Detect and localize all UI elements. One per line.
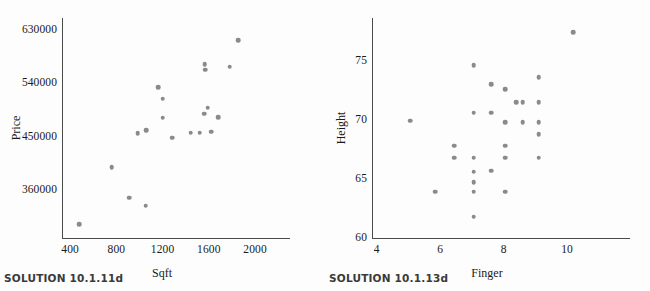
y-axis-tick-label: 450000 <box>22 131 57 143</box>
scatter-point <box>160 97 165 102</box>
y-axis-tick-label: 65 <box>355 173 367 185</box>
scatter-point <box>471 214 476 219</box>
x-axis-line <box>372 238 630 239</box>
y-axis-tick-label: 540000 <box>22 78 57 90</box>
scatter-point <box>203 67 208 72</box>
y-axis-title: Height <box>334 112 349 145</box>
figure-caption-left: SOLUTION 10.1.11d <box>4 272 123 284</box>
x-axis-tick-label: 10 <box>561 244 573 256</box>
scatter-point <box>127 195 132 200</box>
y-axis-tick-label: 70 <box>355 114 367 126</box>
y-axis-tick-label: 75 <box>355 55 367 67</box>
x-axis-tick-label: 1600 <box>197 244 220 256</box>
scatter-point <box>144 204 149 209</box>
solutions-figure-page: 3600004500005400006300004008001200160020… <box>0 0 650 291</box>
scatter-point <box>536 75 541 80</box>
scatter-point <box>209 129 214 134</box>
x-axis-tick-label: 800 <box>108 244 126 256</box>
scatter-point <box>536 100 541 105</box>
figure-price-vs-sqft: 3600004500005400006300004008001200160020… <box>0 0 325 291</box>
scatter-point <box>408 119 413 124</box>
y-axis-line <box>372 18 373 238</box>
scatter-point <box>452 155 457 160</box>
scatter-point <box>503 143 508 148</box>
scatter-point <box>471 63 476 68</box>
scatter-point <box>571 30 576 35</box>
scatter-point <box>227 64 232 69</box>
scatter-point <box>471 180 476 185</box>
scatter-point <box>489 110 494 115</box>
y-axis-tick-label: 360000 <box>22 185 57 197</box>
scatter-point <box>514 100 519 105</box>
scatter-point <box>109 165 114 170</box>
figure-height-vs-finger: 6065707546810FingerHeight SOLUTION 10.1.… <box>325 0 650 291</box>
x-axis-title: Sqft <box>152 266 172 281</box>
scatter-point <box>216 115 221 120</box>
scatter-point <box>471 169 476 174</box>
x-axis-tick-label: 8 <box>501 244 507 256</box>
scatter-point <box>170 135 175 140</box>
scatter-point <box>536 120 541 125</box>
y-axis-tick-label: 60 <box>355 232 367 244</box>
scatter-point <box>202 62 207 67</box>
x-axis-tick-label: 1200 <box>151 244 174 256</box>
x-axis-tick-label: 2000 <box>243 244 266 256</box>
scatter-point <box>433 190 438 195</box>
scatter-point <box>135 131 140 136</box>
x-axis-title: Finger <box>471 266 502 281</box>
scatter-plot-height-finger: 6065707546810FingerHeight <box>372 18 602 238</box>
scatter-point <box>197 130 202 135</box>
scatter-point <box>236 38 241 43</box>
x-axis-line <box>62 238 290 239</box>
scatter-plot-price-sqft: 3600004500005400006300004008001200160020… <box>62 18 262 238</box>
scatter-point <box>156 85 161 90</box>
scatter-point <box>536 132 541 137</box>
scatter-point <box>471 110 476 115</box>
scatter-point <box>452 143 457 148</box>
scatter-point <box>189 130 194 135</box>
x-axis-tick-label: 400 <box>61 244 79 256</box>
scatter-point <box>205 105 210 110</box>
scatter-point <box>144 128 149 133</box>
y-axis-line <box>62 18 63 238</box>
scatter-point <box>77 222 82 227</box>
x-axis-tick-label: 6 <box>437 244 443 256</box>
scatter-point <box>471 190 476 195</box>
scatter-point <box>489 168 494 173</box>
scatter-point <box>503 190 508 195</box>
scatter-point <box>489 82 494 87</box>
scatter-point <box>503 120 508 125</box>
scatter-point <box>536 155 541 160</box>
scatter-point <box>471 155 476 160</box>
y-axis-title: Price <box>9 116 24 141</box>
scatter-point <box>503 155 508 160</box>
y-axis-tick-label: 630000 <box>22 24 57 36</box>
figure-caption-right: SOLUTION 10.1.13d <box>329 272 448 284</box>
scatter-point <box>202 111 207 116</box>
scatter-point <box>503 87 508 92</box>
x-axis-tick-label: 4 <box>374 244 380 256</box>
scatter-point <box>520 100 525 105</box>
scatter-point <box>520 120 525 125</box>
scatter-point <box>160 116 165 121</box>
